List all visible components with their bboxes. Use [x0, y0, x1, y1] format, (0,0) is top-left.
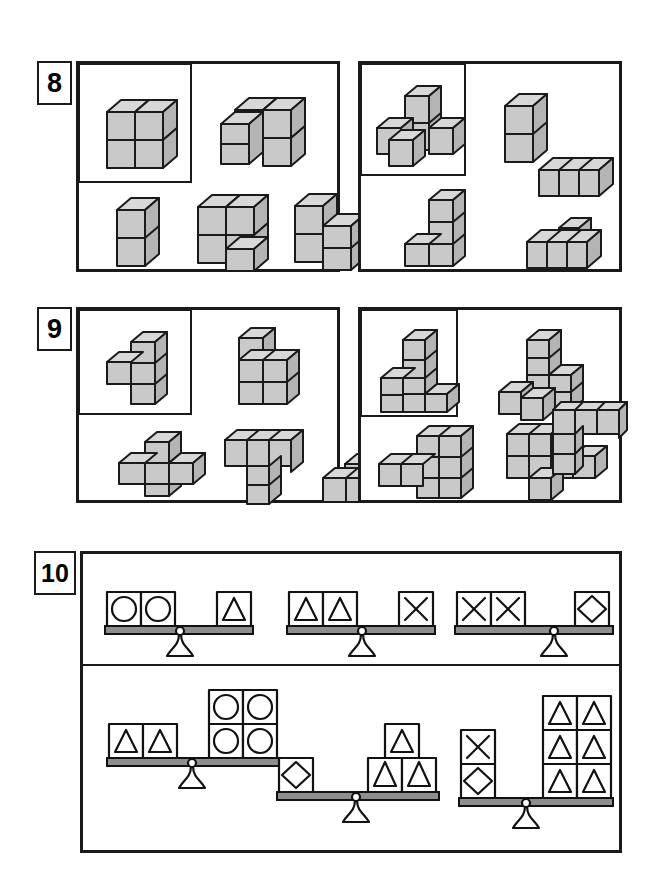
problem-10-row-divider — [83, 664, 619, 666]
stack-9l-candidate-t-shape — [221, 420, 321, 508]
stack-8l-candidate-offset-stack — [289, 186, 367, 272]
balance-scale-3 — [449, 584, 621, 662]
stack-9l-reference-partial-plus — [101, 322, 183, 408]
problem-label-10: 10 — [34, 551, 76, 595]
problem-number-10: 10 — [41, 561, 69, 586]
balance-scale-1 — [93, 584, 279, 662]
stack-9r-candidate-t-wide — [377, 416, 507, 504]
stack-8l-candidate-vertical-domino — [113, 192, 169, 264]
stack-8r-candidate-l-column — [403, 182, 475, 270]
problem-8-left-panel — [76, 61, 340, 272]
problem-9-left-panel — [76, 307, 340, 503]
problem-label-8: 8 — [37, 61, 72, 105]
balance-scale-5 — [265, 732, 461, 842]
problem-9-right-panel — [358, 307, 622, 503]
stack-9l-candidate-plus-shape — [111, 422, 207, 508]
balance-scale-4 — [95, 682, 291, 800]
stack-8r-candidate-row-of-three — [537, 152, 629, 202]
balance-scale-6 — [449, 674, 621, 822]
problem-number-9: 9 — [47, 316, 62, 343]
stack-9r-candidate-corner-l — [549, 390, 629, 478]
problem-label-9: 9 — [37, 307, 72, 351]
stack-8r-reference-t-shape — [371, 78, 469, 174]
problem-8-right-panel — [358, 61, 622, 272]
problem-10-panel — [80, 551, 622, 853]
stack-8l-reference-2x2x2 — [93, 78, 185, 170]
stack-9r-reference-l-block — [377, 320, 463, 416]
problem-number-8: 8 — [47, 70, 62, 97]
balance-scale-2 — [275, 584, 461, 662]
stack-8r-candidate-row-plus-top — [523, 212, 625, 274]
stack-8r-candidate-vertical-domino — [501, 88, 557, 160]
stack-9l-candidate-p-shape — [229, 320, 315, 418]
stack-8l-candidate-l-shaped — [221, 84, 316, 179]
worksheet-page: 8 — [0, 0, 658, 892]
stack-8l-candidate-stair — [192, 189, 284, 271]
